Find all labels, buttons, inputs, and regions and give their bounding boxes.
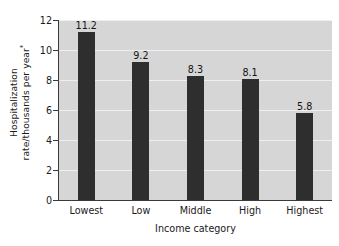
bar xyxy=(132,62,149,200)
bar xyxy=(78,32,95,200)
x-axis-line xyxy=(58,200,332,201)
bar-value-label: 8.1 xyxy=(230,67,270,78)
bar xyxy=(296,113,313,200)
gridline xyxy=(59,50,332,51)
y-axis-tick-label: 4 xyxy=(36,135,52,146)
x-axis-tick-label: Highest xyxy=(270,205,339,216)
bar xyxy=(187,76,204,201)
y-axis-tick-label: 8 xyxy=(36,75,52,86)
bar xyxy=(242,79,259,201)
y-axis-tick-label: 10 xyxy=(36,45,52,56)
y-axis-title-line-1: Hospitalization xyxy=(9,45,21,161)
bar-value-label: 5.8 xyxy=(285,101,325,112)
x-axis-title: Income category xyxy=(59,223,332,234)
y-axis-title-line-2-text: rate/thousands per year xyxy=(20,48,31,160)
y-axis-line xyxy=(58,20,59,201)
y-axis-tick-labels: 024681012 xyxy=(36,0,52,246)
y-axis-tick-label: 6 xyxy=(36,105,52,116)
y-axis-title: Hospitalization rate/thousands per year* xyxy=(0,0,40,205)
y-axis-tick-label: 12 xyxy=(36,15,52,26)
bar-value-label: 8.3 xyxy=(176,64,216,75)
y-axis-footnote-marker: * xyxy=(19,45,27,49)
y-axis-tick-label: 2 xyxy=(36,165,52,176)
bar-value-label: 11.2 xyxy=(66,20,106,31)
bar-value-label: 9.2 xyxy=(121,50,161,61)
y-axis-title-line-2: rate/thousands per year* xyxy=(20,45,32,161)
bar-chart-figure: Hospitalization rate/thousands per year*… xyxy=(0,0,339,246)
y-axis-tick-label: 0 xyxy=(36,195,52,206)
